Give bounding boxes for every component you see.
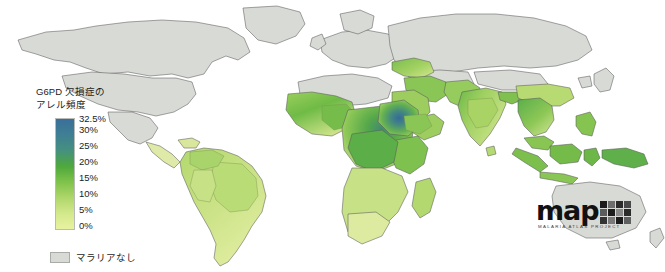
map-logo-grid-icon: [600, 201, 631, 224]
logo-grid-cell-2: [616, 201, 623, 208]
tick-10: 10%: [79, 189, 98, 199]
logo-grid-cell-11: [624, 217, 631, 224]
region-srilanka: [486, 146, 496, 156]
tick-5: 5%: [79, 205, 93, 215]
colorbar-tick-labels: 32.5% 30% 25% 20% 15% 10% 5% 0%: [79, 114, 149, 234]
logo-grid-cell-3: [624, 201, 631, 208]
tick-20: 20%: [79, 157, 98, 167]
tick-0: 0%: [79, 221, 93, 231]
logo-grid-cell-8: [600, 217, 607, 224]
map-project-logo: map MALARIA ATLAS PROJECT: [536, 199, 631, 224]
logo-grid-cell-7: [624, 209, 631, 216]
tick-32-5: 32.5%: [79, 114, 106, 124]
tick-15: 15%: [79, 173, 98, 183]
no-malaria-legend-row: マラリアなし: [50, 250, 136, 264]
logo-grid-cell-4: [600, 209, 607, 216]
map-logo-wordmark: map: [536, 199, 598, 223]
g6pd-map-figure: G6PD 欠損症の アレル頻度 32.5% 30% 25% 20% 15% 10…: [0, 0, 665, 272]
no-malaria-swatch: [50, 252, 70, 263]
logo-grid-cell-9: [608, 217, 615, 224]
logo-grid-cell-10: [616, 217, 623, 224]
logo-grid-cell-5: [608, 209, 615, 216]
colorbar-gradient: [55, 118, 75, 230]
colorbar-block: 32.5% 30% 25% 20% 15% 10% 5% 0%: [36, 114, 166, 234]
tick-30: 30%: [79, 125, 98, 135]
logo-grid-cell-1: [608, 201, 615, 208]
logo-grid-cell-6: [616, 209, 623, 216]
legend-title: G6PD 欠損症の アレル頻度: [36, 86, 166, 111]
no-malaria-label: マラリアなし: [76, 250, 136, 264]
legend: G6PD 欠損症の アレル頻度 32.5% 30% 25% 20% 15% 10…: [36, 86, 166, 234]
logo-grid-cell-0: [600, 201, 607, 208]
tick-25: 25%: [79, 141, 98, 151]
map-logo-subtitle: MALARIA ATLAS PROJECT: [538, 224, 621, 229]
